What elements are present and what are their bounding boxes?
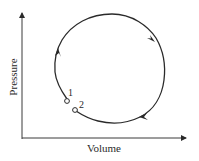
point-2-label: 2 [79,99,84,110]
direction-arrow-left-icon [139,113,148,120]
y-axis-label: Pressure [7,58,19,95]
point-1: 1 [65,87,73,103]
x-axis-label: Volume [87,142,121,154]
direction-arrow-down-right-icon [147,35,155,42]
point-1-label: 1 [68,87,73,98]
pv-diagram: Pressure Volume 1 2 [0,0,199,161]
axes [22,13,186,139]
point-1-marker [65,99,70,104]
cycle-curve [55,14,165,123]
point-2-marker [73,108,78,113]
point-2: 2 [73,99,84,112]
